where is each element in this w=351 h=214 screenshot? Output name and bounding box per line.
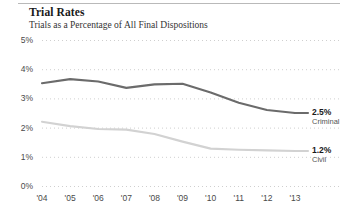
x-tick-label: '11 bbox=[226, 193, 252, 203]
y-tick-label: 3% bbox=[11, 93, 33, 103]
x-tick-label: '13 bbox=[282, 193, 308, 203]
annotation-series-name: Criminal bbox=[312, 117, 340, 126]
x-tick-label: '06 bbox=[85, 193, 111, 203]
annotation-value: 1.2% bbox=[312, 145, 331, 155]
x-tick-label: '10 bbox=[198, 193, 224, 203]
series-annotation-civil: 1.2%Civil bbox=[312, 145, 331, 164]
y-tick-label: 5% bbox=[11, 35, 33, 45]
x-tick-label: '12 bbox=[254, 193, 280, 203]
x-tick-label: '04 bbox=[29, 193, 55, 203]
x-tick-label: '08 bbox=[141, 193, 167, 203]
series-line-criminal bbox=[42, 79, 295, 113]
y-tick-label: 0% bbox=[11, 181, 33, 191]
series-annotation-criminal: 2.5%Criminal bbox=[312, 107, 340, 126]
y-tick-label: 2% bbox=[11, 123, 33, 133]
plot-area bbox=[0, 0, 351, 214]
x-tick-label: '09 bbox=[170, 193, 196, 203]
trial-rates-chart-figure: Trial Rates Trials as a Percentage of Al… bbox=[0, 0, 351, 214]
y-tick-label: 4% bbox=[11, 64, 33, 74]
x-tick-label: '05 bbox=[57, 193, 83, 203]
x-tick-label: '07 bbox=[113, 193, 139, 203]
annotation-value: 2.5% bbox=[312, 107, 340, 117]
series-line-civil bbox=[42, 122, 295, 151]
y-tick-label: 1% bbox=[11, 152, 33, 162]
annotation-series-name: Civil bbox=[312, 155, 331, 164]
line-plot-svg bbox=[0, 0, 351, 214]
